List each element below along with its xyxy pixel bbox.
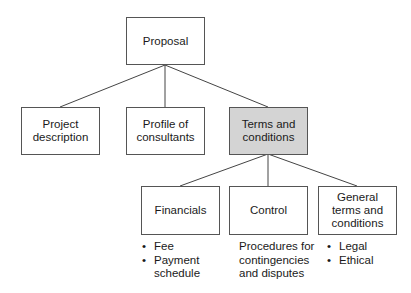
node-label: Control — [250, 204, 287, 217]
note-item: Payment schedule — [154, 254, 200, 281]
node-label: Project description — [33, 118, 89, 144]
node-label: Financials — [155, 204, 207, 217]
node-label: General terms and conditions — [332, 191, 384, 230]
node-project-description: Project description — [21, 107, 100, 155]
note-item: Ethical — [339, 254, 374, 268]
node-label: Terms and conditions — [242, 118, 296, 144]
financials-notes: Fee Payment schedule — [141, 240, 200, 281]
node-terms-and-conditions: Terms and conditions — [229, 107, 308, 155]
note-item: Legal — [339, 240, 374, 254]
node-label: Profile of consultants — [136, 118, 194, 144]
node-profile-of-consultants: Profile of consultants — [126, 107, 205, 155]
node-general-terms: General terms and conditions — [318, 186, 397, 235]
note-text: Procedures for contingencies and dispute… — [239, 240, 314, 281]
control-notes: Procedures for contingencies and dispute… — [239, 240, 314, 281]
node-control: Control — [229, 186, 308, 235]
node-proposal: Proposal — [126, 17, 205, 65]
node-financials: Financials — [141, 186, 220, 235]
note-item: Fee — [154, 240, 200, 254]
node-label: Proposal — [143, 35, 188, 48]
general-terms-notes: Legal Ethical — [326, 240, 374, 267]
